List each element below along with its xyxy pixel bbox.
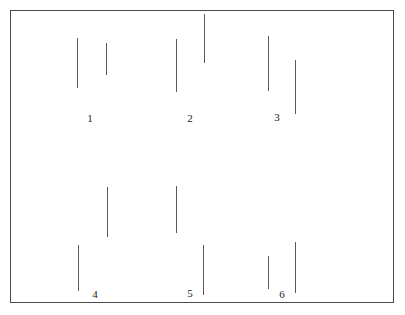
line-segment-pair-3-left (268, 36, 269, 91)
line-segment-pair-1-left (77, 38, 78, 88)
line-segment-pair-5-left (176, 186, 177, 233)
line-segment-pair-5-right (203, 245, 204, 295)
line-segment-pair-4-left (78, 245, 79, 291)
line-segment-pair-2-left (176, 39, 177, 92)
line-segment-pair-3-right (295, 60, 296, 114)
pair-label-5: 5 (187, 288, 193, 299)
figure-border (10, 10, 394, 303)
line-segment-pair-4-right (107, 187, 108, 237)
pair-label-1: 1 (87, 113, 93, 124)
pair-label-6: 6 (279, 289, 285, 300)
line-segment-pair-6-right (295, 242, 296, 293)
pair-label-3: 3 (274, 112, 280, 123)
line-segment-pair-2-right (204, 14, 205, 63)
figure-canvas: 123456 (0, 0, 405, 315)
pair-label-4: 4 (92, 289, 98, 300)
pair-label-2: 2 (187, 113, 193, 124)
line-segment-pair-1-right (106, 43, 107, 75)
line-segment-pair-6-left (268, 256, 269, 289)
